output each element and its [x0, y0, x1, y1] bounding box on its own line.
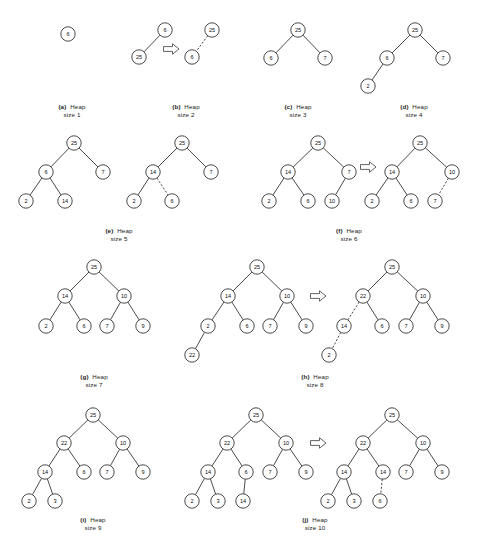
node-value-label: 6 [306, 198, 309, 204]
caption-word: Heap [312, 516, 327, 523]
tree-node: 6 [380, 51, 394, 65]
panel-d: 25672 [361, 23, 450, 93]
tree-edge-solid [49, 449, 60, 466]
tree-node: 25 [67, 136, 81, 150]
node-value-label: 9 [304, 323, 307, 329]
tree-node: 25 [205, 23, 219, 37]
panel-a: 6 [61, 27, 75, 41]
node-value-label: 9 [440, 469, 443, 475]
tree-node: 25 [249, 408, 263, 422]
tree-edge-solid [138, 178, 149, 195]
caption-tag: (e) [105, 227, 113, 234]
node-value-label: 7 [101, 169, 104, 175]
tree-e-after: 2514726 [127, 136, 218, 208]
node-value-label: 6 [82, 469, 85, 475]
node-value-label: 6 [163, 27, 166, 33]
node-value-label: 7 [433, 198, 436, 204]
tree-node: 22 [185, 348, 199, 362]
tree-edge-solid [195, 332, 204, 348]
tree-node: 22 [220, 436, 234, 450]
tree-node: 7 [100, 319, 114, 333]
tree-node: 6 [375, 319, 389, 333]
tree-node: 2 [201, 319, 215, 333]
tree-edge-dashed [196, 36, 207, 51]
node-value-label: 9 [304, 469, 307, 475]
caption-word: Heap [412, 103, 427, 110]
tree-node: 6 [77, 465, 91, 479]
tree-edge-solid [128, 302, 139, 320]
tree-edge-solid [367, 302, 378, 320]
tree-d-1: 25672 [361, 23, 450, 93]
tree-edge-solid [293, 148, 313, 167]
tree-node: 9 [299, 465, 313, 479]
heap-figure: 6625256256725672256721425147262514726102… [0, 0, 477, 550]
tree-node: 14 [38, 465, 52, 479]
node-value-label: 3 [352, 498, 355, 504]
caption-size: size 2 [177, 111, 194, 118]
tree-edge-solid [232, 302, 243, 320]
tree-edge-dashed [348, 302, 359, 320]
node-value-label: 7 [347, 169, 350, 175]
node-value-label: 14 [240, 498, 246, 504]
tree-edge-solid [427, 449, 438, 466]
tree-node: 22 [57, 436, 71, 450]
tree-node: 2 [321, 494, 335, 508]
node-value-label: 7 [404, 323, 407, 329]
node-value-label: 14 [62, 293, 68, 299]
tree-node: 6 [240, 319, 254, 333]
node-value-label: 7 [323, 55, 326, 61]
tree-node: 25 [291, 23, 305, 37]
tree-node: 7 [96, 165, 110, 179]
node-value-label: 7 [105, 323, 108, 329]
node-value-label: 2 [132, 198, 135, 204]
panel-caption-b: (b) Heapsize 2 [172, 103, 200, 119]
caption-word: Heap [313, 373, 328, 380]
node-value-label: 25 [417, 140, 423, 146]
panel-j: 252210146792314252210141479236 [185, 408, 449, 508]
node-value-label: 9 [141, 323, 144, 329]
tree-f-after: 251410267 [365, 136, 459, 208]
tree-node: 25 [86, 408, 100, 422]
tree-node: 2 [322, 348, 336, 362]
tree-node: 2 [22, 494, 36, 508]
tree-node: 6 [158, 23, 172, 37]
node-value-label: 10 [284, 293, 290, 299]
tree-node: 14 [236, 494, 250, 508]
caption-size: size 7 [85, 381, 102, 388]
tree-edge-solid [292, 178, 304, 195]
tree-node: 6 [185, 50, 199, 64]
tree-edge-solid [99, 272, 119, 291]
tree-j-after: 252210141479236 [321, 408, 449, 508]
tree-node: 10 [279, 436, 293, 450]
tree-node: 6 [264, 51, 278, 65]
node-value-label: 25 [253, 412, 259, 418]
tree-edge-dashed [381, 479, 383, 494]
panel-caption-f: (f) Heapsize 6 [336, 227, 362, 243]
tree-node: 7 [100, 465, 114, 479]
caption-tag: (b) [172, 103, 180, 110]
tree-node: 10 [445, 165, 459, 179]
node-value-label: 6 [190, 54, 193, 60]
caption-size: size 4 [405, 111, 422, 118]
node-value-label: 2 [267, 198, 270, 204]
heap-diagram-canvas: 6625256256725672256721425147262514726102… [0, 0, 477, 550]
tree-node: 6 [77, 319, 91, 333]
caption-tag: (i) [80, 516, 86, 523]
tree-edge-solid [291, 302, 302, 320]
tree-node: 7 [263, 465, 277, 479]
tree-edge-solid [323, 148, 343, 167]
tree-edge-solid [336, 178, 346, 195]
caption-tag: (d) [400, 103, 408, 110]
caption-size: size 9 [84, 524, 101, 531]
node-value-label: 6 [409, 198, 412, 204]
tree-node: 14 [201, 465, 215, 479]
tree-edge-solid [273, 178, 284, 195]
node-value-label: 22 [360, 293, 366, 299]
tree-edge-solid [110, 449, 119, 465]
node-value-label: 25 [254, 264, 260, 270]
tree-node: 9 [299, 319, 313, 333]
node-value-label: 2 [27, 498, 30, 504]
tree-edge-solid [98, 420, 117, 438]
block-right-arrow-icon [164, 44, 180, 54]
tree-edge-solid [187, 148, 206, 167]
